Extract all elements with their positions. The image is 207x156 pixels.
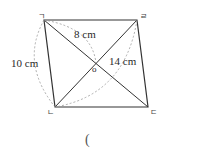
answer-blank: ( — [85, 133, 90, 147]
vertex-label-top-right: ㄹ — [140, 13, 147, 21]
vertex-label-bottom-right: ㄷ — [150, 109, 157, 117]
center-label: o — [92, 65, 97, 74]
measurement-half-diagonal: 8 cm — [74, 29, 96, 40]
measurement-side-left: 10 cm — [11, 58, 38, 69]
parallelogram-diagram — [0, 0, 207, 156]
vertex-label-top-left: ㄱ — [38, 13, 45, 21]
measurement-diagonal: 14 cm — [109, 56, 136, 67]
vertex-label-bottom-left: ㄴ — [47, 109, 54, 117]
